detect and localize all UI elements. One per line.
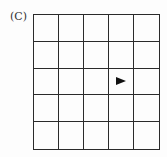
grid-cell-r3-c5 — [134, 69, 159, 96]
grid-cell-r5-c3 — [84, 122, 109, 149]
grid-cell-r3-c1 — [34, 69, 59, 96]
grid-cell-r4-c4 — [109, 95, 134, 122]
figure-label: (C) — [10, 11, 27, 22]
grid-cell-r1-c1 — [34, 15, 59, 42]
grid-cell-r2-c3 — [84, 42, 109, 69]
grid-cell-r3-c3 — [84, 69, 109, 96]
grid-cell-r3-c2 — [59, 69, 84, 96]
arrow-right-icon — [116, 77, 126, 85]
grid-cell-r1-c4 — [109, 15, 134, 42]
grid-cell-r5-c4 — [109, 122, 134, 149]
grid-cell-r2-c5 — [134, 42, 159, 69]
grid-cell-r2-c4 — [109, 42, 134, 69]
grid-cell-r5-c2 — [59, 122, 84, 149]
grid-cell-r1-c5 — [134, 15, 159, 42]
grid-cell-r3-c4 — [109, 69, 134, 96]
grid-cell-r4-c2 — [59, 95, 84, 122]
grid-cell-r4-c1 — [34, 95, 59, 122]
grid-cell-r2-c2 — [59, 42, 84, 69]
grid-cell-r5-c1 — [34, 122, 59, 149]
grid-5x5 — [33, 14, 160, 150]
grid-cell-r4-c5 — [134, 95, 159, 122]
grid-cell-r5-c5 — [134, 122, 159, 149]
grid-cell-r1-c2 — [59, 15, 84, 42]
grid-cell-r4-c3 — [84, 95, 109, 122]
grid-cell-r1-c3 — [84, 15, 109, 42]
grid-cell-r2-c1 — [34, 42, 59, 69]
